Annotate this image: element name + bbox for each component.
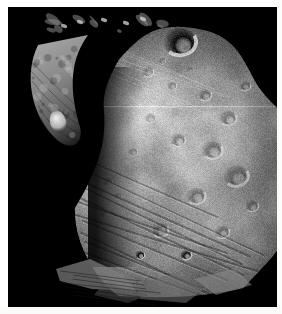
phobos-moon-photograph	[8, 7, 277, 307]
mat-border-bottom	[0, 307, 282, 314]
image-viewer: Grayscale spacecraft photograph of Phobo…	[0, 0, 282, 314]
mat-border-left	[0, 0, 8, 314]
photo-frame	[8, 7, 277, 307]
mat-border-top	[0, 0, 282, 7]
mat-border-right	[277, 0, 282, 314]
